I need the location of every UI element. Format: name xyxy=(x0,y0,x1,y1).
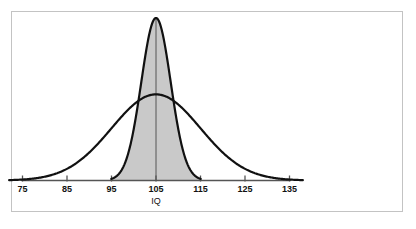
x-axis-tick-label-135: 135 xyxy=(282,184,297,194)
x-axis-tick-label-115: 115 xyxy=(193,184,208,194)
x-axis-tick-label-95: 95 xyxy=(106,184,116,194)
x-axis-tick-label-85: 85 xyxy=(62,184,72,194)
x-axis-title: IQ xyxy=(151,196,161,206)
distribution-plot: 758595105115125135 IQ xyxy=(0,0,416,229)
x-axis-tick-label-125: 125 xyxy=(237,184,252,194)
x-axis-tick-label-75: 75 xyxy=(17,184,27,194)
chart-figure: 758595105115125135 IQ xyxy=(0,0,416,229)
x-axis-tick-label-105: 105 xyxy=(148,184,163,194)
x-axis-tick-labels: 758595105115125135 xyxy=(17,184,297,194)
